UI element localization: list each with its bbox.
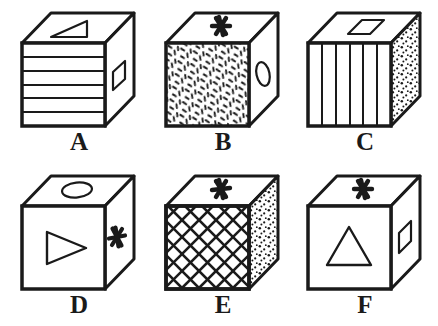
cube-item-a: A bbox=[6, 0, 152, 163]
cube-drawing-c bbox=[292, 0, 438, 140]
cube-item-d: D bbox=[6, 163, 152, 326]
cube-label-d: D bbox=[6, 291, 152, 319]
cube-e-front-face bbox=[166, 206, 249, 289]
cube-drawing-b bbox=[150, 0, 296, 140]
cube-drawing-a bbox=[6, 0, 152, 140]
cube-label-e: E bbox=[150, 291, 296, 319]
cube-e-top-asterisk-symbol bbox=[212, 180, 230, 198]
cube-f-top-asterisk-symbol bbox=[354, 180, 372, 198]
cube-d-right-asterisk-symbol bbox=[109, 228, 125, 247]
cube-item-f: F bbox=[292, 163, 438, 326]
cube-item-e: E bbox=[150, 163, 296, 326]
cube-b-front-face bbox=[166, 43, 249, 126]
cube-label-a: A bbox=[6, 128, 152, 156]
cube-drawing-e bbox=[150, 163, 296, 303]
cube-label-f: F bbox=[292, 291, 438, 319]
cube-drawing-d bbox=[6, 163, 152, 303]
cube-label-c: C bbox=[292, 128, 438, 156]
cube-item-c: C bbox=[292, 0, 438, 163]
cube-b-top-asterisk-symbol bbox=[212, 17, 230, 35]
cube-figure: A bbox=[0, 0, 438, 326]
cube-item-b: B bbox=[150, 0, 296, 163]
cube-drawing-f bbox=[292, 163, 438, 303]
cube-label-b: B bbox=[150, 128, 296, 156]
